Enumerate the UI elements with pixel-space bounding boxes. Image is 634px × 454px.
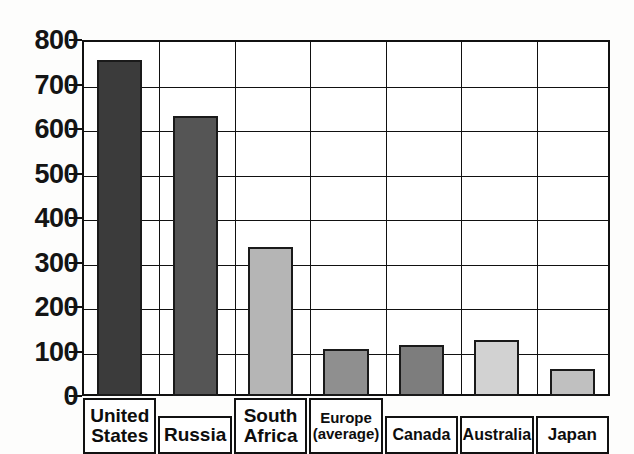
x-axis-label-4: Europe(average): [309, 398, 382, 454]
y-axis-tick-mark: [69, 217, 82, 219]
x-axis-label-2: Russia: [158, 416, 231, 454]
y-axis-tick-mark: [69, 173, 82, 175]
x-axis-label-line2: States: [91, 426, 148, 446]
x-axis-label-6: Australia: [460, 416, 533, 454]
x-axis-label-1: UnitedStates: [83, 398, 156, 454]
x-axis-label-3: SouthAfrica: [234, 398, 307, 454]
x-axis-label-line2: Africa: [244, 426, 298, 446]
y-axis-tick-mark: [69, 262, 82, 264]
x-axis-label-line1: Canada: [393, 427, 451, 444]
y-axis-tick-mark: [69, 306, 82, 308]
y-axis-tick-mark: [69, 395, 82, 397]
y-axis-tick-mark: [69, 128, 82, 130]
x-axis-label-5: Canada: [385, 416, 458, 454]
x-axis-label-line1: Japan: [548, 426, 597, 444]
x-axis-label-line1: Europe: [320, 410, 372, 426]
x-axis-label-line2: (average): [313, 426, 380, 442]
x-axis-category-labels: UnitedStatesRussiaSouthAfricaEurope(aver…: [0, 0, 634, 454]
x-axis-label-7: Japan: [536, 416, 609, 454]
y-axis-tick-mark: [69, 39, 82, 41]
x-axis-label-line1: United: [90, 406, 149, 426]
bar-chart: 8007006005004003002001000 UnitedStatesRu…: [0, 0, 634, 454]
x-axis-label-line1: South: [244, 406, 298, 426]
y-axis-tick-mark: [69, 351, 82, 353]
x-axis-label-line1: Australia: [463, 427, 531, 444]
x-axis-label-line1: Russia: [164, 425, 226, 445]
y-axis-tick-mark: [69, 84, 82, 86]
